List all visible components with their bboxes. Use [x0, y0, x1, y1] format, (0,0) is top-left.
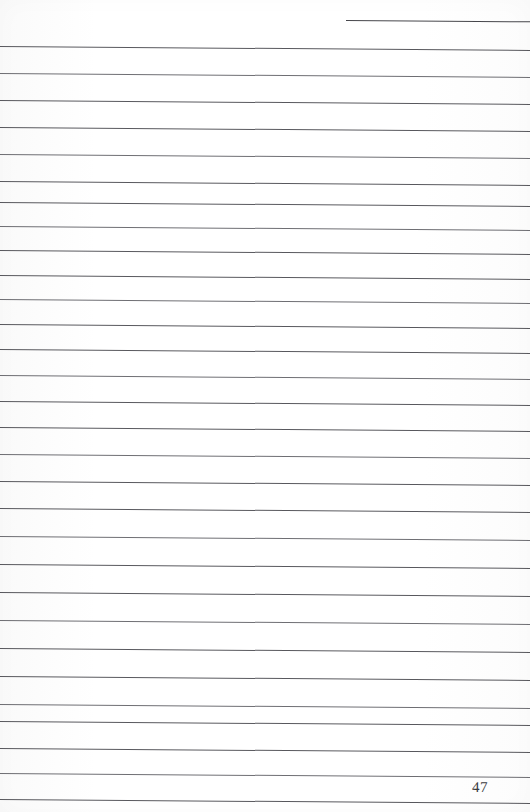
page-number: 47 [472, 779, 488, 796]
page-surface [0, 0, 530, 812]
notebook-page: 47 [0, 0, 530, 812]
